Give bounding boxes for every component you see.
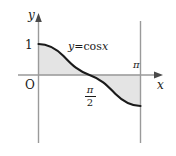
- x-tick-label-pi: π: [133, 60, 140, 70]
- y-axis-label: y: [28, 9, 35, 21]
- y-axis-arrow-icon: [35, 13, 42, 22]
- half-pi-denominator: 2: [79, 97, 101, 109]
- origin-label: O: [25, 79, 35, 91]
- curve-equation-operator: =cos: [74, 40, 102, 53]
- half-pi-numerator: π: [79, 85, 101, 96]
- x-tick-label-half-pi: π 2: [79, 85, 101, 108]
- curve-equation-variable: x: [102, 40, 108, 53]
- curve-equation-label: y=cosx: [68, 41, 108, 52]
- x-axis-label: x: [157, 79, 164, 91]
- y-tick-label-one: 1: [25, 39, 33, 51]
- cosine-graph-figure: y x 1 O π y=cosx π 2: [0, 0, 176, 156]
